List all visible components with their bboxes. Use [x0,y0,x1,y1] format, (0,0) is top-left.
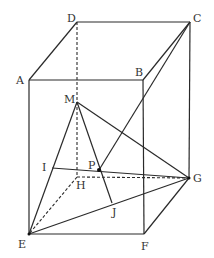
label-G: G [193,173,202,184]
prism-diagram: D C A B M I P H G J E F [0,0,214,258]
label-I: I [42,162,46,173]
edge-CG [189,22,190,178]
label-C: C [193,13,201,24]
label-P: P [88,160,95,171]
segment-IG [52,168,189,178]
label-B: B [135,67,143,78]
label-A: A [16,75,24,86]
edge-AD [29,22,77,80]
label-F: F [141,241,149,252]
label-E: E [18,239,26,250]
point-G-dot [188,177,191,180]
diagram-lines [0,0,214,258]
point-E-dot [28,233,31,236]
label-H: H [76,180,86,191]
edge-BF [143,80,144,234]
point-P-dot [97,168,101,172]
label-M: M [64,94,75,105]
edge-BC [143,22,190,80]
label-D: D [67,13,76,24]
label-J: J [112,207,116,218]
